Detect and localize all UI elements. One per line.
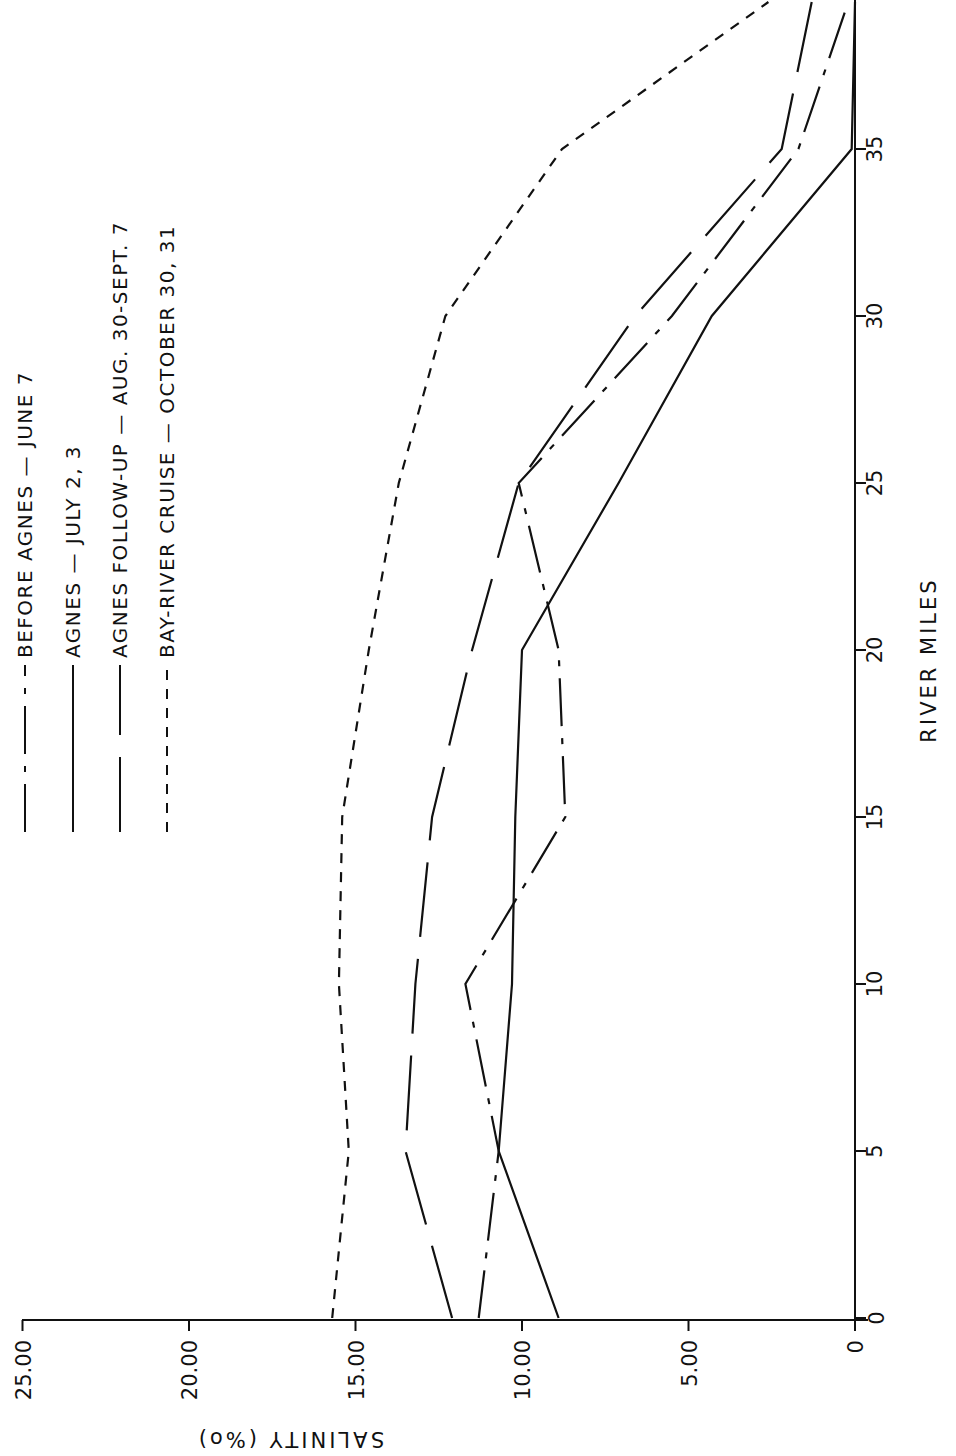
river-miles-ticks: 05101520253035	[855, 136, 889, 1325]
salinity-tick-label: 0	[844, 1340, 868, 1353]
chart-canvas: 05101520253035 05.0010.0015.0020.0025.00…	[0, 0, 956, 1456]
salinity-tick-label: 10.00	[511, 1340, 535, 1400]
legend-item-bay-river-cruise: BAY-RIVER CRUISE — OCTOBER 30, 31	[155, 225, 179, 832]
river-mile-tick-label: 25	[863, 470, 887, 497]
river-mile-tick-label: 10	[863, 971, 887, 998]
legend-label: BEFORE AGNES — JUNE 7	[13, 371, 37, 658]
salinity-ticks: 05.0010.0015.0020.0025.00	[12, 1320, 869, 1400]
legend-label: AGNES FOLLOW-UP — AUG. 30-SEPT. 7	[108, 221, 132, 658]
river-mile-tick-label: 0	[865, 1311, 889, 1324]
river-mile-tick-label: 20	[863, 637, 887, 664]
series-line-dash-dot	[465, 2, 848, 1318]
river-mile-tick-label: 5	[863, 1144, 887, 1157]
legend-item-before-agnes: BEFORE AGNES — JUNE 7	[13, 371, 37, 832]
series-line-short-dash	[332, 2, 768, 1318]
river-mile-tick-label: 15	[863, 804, 887, 831]
salinity-tick-label: 5.00	[678, 1340, 702, 1387]
series-line-long-dash	[406, 2, 812, 1318]
series-line-solid	[499, 2, 855, 1318]
river-mile-tick-label: 30	[863, 303, 887, 330]
salinity-axis-title: SALINITY (%o)	[196, 1427, 384, 1451]
legend-label: BAY-RIVER CRUISE — OCTOBER 30, 31	[155, 225, 179, 658]
river-mile-tick-label: 35	[863, 136, 887, 163]
salinity-tick-label: 15.00	[345, 1340, 369, 1400]
legend: BEFORE AGNES — JUNE 7 AGNES — JULY 2, 3 …	[13, 221, 179, 832]
legend-label: AGNES — JULY 2, 3	[61, 445, 85, 658]
river-miles-axis-title: RIVER MILES	[917, 577, 941, 742]
data-series	[332, 2, 855, 1318]
legend-item-agnes-follow-up: AGNES FOLLOW-UP — AUG. 30-SEPT. 7	[108, 221, 132, 832]
salinity-chart: 05101520253035 05.0010.0015.0020.0025.00…	[0, 0, 956, 1456]
axes	[22, 0, 868, 1320]
salinity-tick-label: 25.00	[12, 1340, 36, 1400]
salinity-tick-label: 20.00	[178, 1340, 202, 1400]
legend-item-agnes: AGNES — JULY 2, 3	[61, 445, 85, 832]
